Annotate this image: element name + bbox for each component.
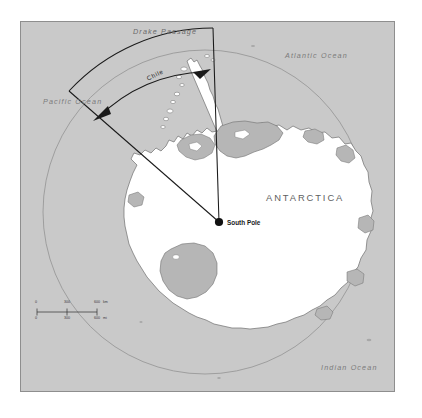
east-coast-shelf-c bbox=[347, 269, 364, 286]
scale-label-mi-300: 300 bbox=[64, 316, 70, 320]
antarctic-peninsula bbox=[187, 58, 224, 134]
scale-label-km-600: 600 bbox=[94, 300, 100, 304]
map-frame: Drake Passage Atlantic Ocean Pacific Oce… bbox=[20, 21, 395, 392]
scale-unit-km: km bbox=[103, 300, 108, 304]
scale-label-mi-0: 0 bbox=[35, 316, 37, 320]
map-graphic bbox=[21, 22, 394, 391]
scale-unit-mi: mi bbox=[103, 316, 107, 320]
scale-label-mi-600: 600 bbox=[94, 316, 100, 320]
sector-arrow-arc bbox=[98, 72, 205, 118]
scale-bar-graphic bbox=[37, 309, 97, 316]
east-coast-shelf-d bbox=[315, 306, 333, 320]
south-pole-marker bbox=[215, 218, 223, 226]
scale-label-km-0: 0 bbox=[35, 300, 37, 304]
ross-ice-shelf-hole bbox=[173, 255, 180, 260]
scale-label-km-300: 300 bbox=[64, 300, 70, 304]
antarctica-map-figure: Drake Passage Atlantic Ocean Pacific Oce… bbox=[0, 0, 422, 418]
sector-arrow-head-west bbox=[93, 106, 111, 121]
